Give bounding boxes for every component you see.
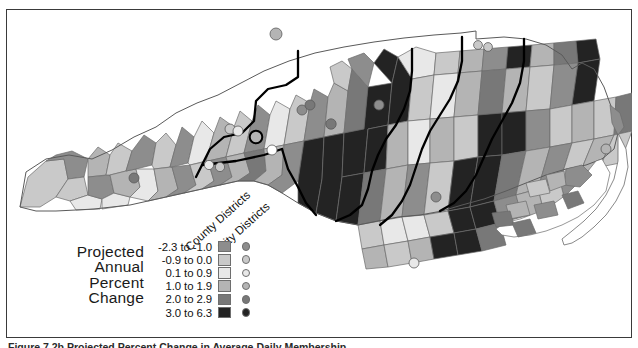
legend-city-symbol-cell	[231, 269, 261, 278]
legend-class-label: 3.0 to 6.3	[148, 307, 218, 319]
legend-city-dot	[242, 295, 251, 304]
map-legend: Projected Annual Percent Change County D…	[22, 196, 292, 328]
legend-rows: -2.3 to -1.0 -0.9 to 0.0 0.1 to 0.9	[148, 240, 261, 319]
legend-county-swatch	[218, 294, 231, 306]
legend-title-line-1: Projected	[22, 244, 144, 259]
legend-class-label: 0.1 to 0.9	[148, 267, 218, 279]
legend-row: -0.9 to 0.0	[148, 253, 261, 266]
legend-title-line-3: Percent	[22, 275, 144, 290]
legend-city-dot	[242, 242, 251, 251]
legend-row: 2.0 to 2.9	[148, 293, 261, 306]
legend-class-label: -2.3 to -1.0	[148, 241, 218, 253]
legend-row: 0.1 to 0.9	[148, 266, 261, 279]
legend-title-line-2: Annual	[22, 259, 144, 274]
legend-city-symbol-cell	[231, 255, 261, 264]
legend-title: Projected Annual Percent Change	[22, 244, 144, 306]
legend-title-line-4: Change	[22, 290, 144, 305]
legend-city-symbol-cell	[231, 242, 261, 251]
legend-county-swatch	[218, 280, 231, 292]
legend-class-label: 1.0 to 1.9	[148, 280, 218, 292]
legend-county-swatch	[218, 267, 231, 279]
legend-county-swatch	[218, 307, 231, 319]
legend-city-symbol-cell	[231, 295, 261, 304]
legend-city-symbol-cell	[231, 282, 261, 291]
legend-city-dot	[242, 308, 251, 317]
legend-county-swatch	[218, 241, 231, 253]
legend-city-dot	[242, 255, 251, 264]
legend-city-dot	[242, 282, 251, 291]
legend-row: -2.3 to -1.0	[148, 240, 261, 253]
legend-city-symbol-cell	[231, 308, 261, 317]
legend-city-dot	[242, 269, 251, 278]
legend-class-label: -0.9 to 0.0	[148, 254, 218, 266]
figure-container: Projected Annual Percent Change County D…	[0, 0, 638, 348]
figure-caption: Figure 7.2b Projected Percent Change in …	[8, 341, 438, 348]
legend-row: 1.0 to 1.9	[148, 280, 261, 293]
legend-row: 3.0 to 6.3	[148, 306, 261, 319]
legend-class-label: 2.0 to 2.9	[148, 293, 218, 305]
legend-county-swatch	[218, 254, 231, 266]
